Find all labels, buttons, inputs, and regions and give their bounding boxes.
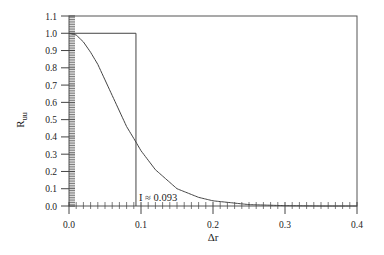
x-tick-label: 0.2: [207, 220, 219, 230]
y-tick-label: 1.0: [45, 29, 57, 39]
integral-scale-rectangle: [69, 33, 136, 206]
x-tick-label: 0.0: [63, 220, 75, 230]
svg-text:Ruu: Ruu: [14, 112, 29, 127]
integral-scale-annotation: I ≈ 0.093: [139, 192, 177, 203]
x-tick-label: 0.4: [351, 220, 363, 230]
y-tick-label: 0.4: [45, 132, 57, 142]
y-tick-label: 0.5: [45, 115, 57, 125]
y-tick-label: 0.8: [45, 63, 57, 73]
chart-plot: 0.00.10.20.30.40.50.60.70.80.91.01.10.00…: [0, 0, 384, 255]
y-tick-label: 0.1: [45, 184, 57, 194]
x-axis-label: Δr: [208, 231, 219, 243]
y-tick-label: 0.2: [45, 167, 57, 177]
axis-tick-labels: 0.00.10.20.30.40.50.60.70.80.91.01.10.00…: [45, 12, 363, 231]
y-axis-label: Ruu: [14, 112, 29, 127]
y-tick-label: 0.0: [45, 202, 57, 212]
correlation-curve: [69, 33, 357, 206]
y-tick-label: 0.3: [45, 150, 57, 160]
x-tick-label: 0.1: [135, 220, 147, 230]
x-tick-label: 0.3: [279, 220, 291, 230]
axis-ticks: [61, 16, 357, 214]
plot-frame: [69, 16, 357, 206]
y-tick-label: 0.6: [45, 98, 57, 108]
y-tick-label: 0.9: [45, 46, 57, 56]
y-tick-label: 0.7: [45, 81, 57, 91]
y-axis-label-sub: uu: [20, 112, 29, 120]
data-series: [69, 33, 357, 206]
y-tick-label: 1.1: [45, 12, 57, 22]
